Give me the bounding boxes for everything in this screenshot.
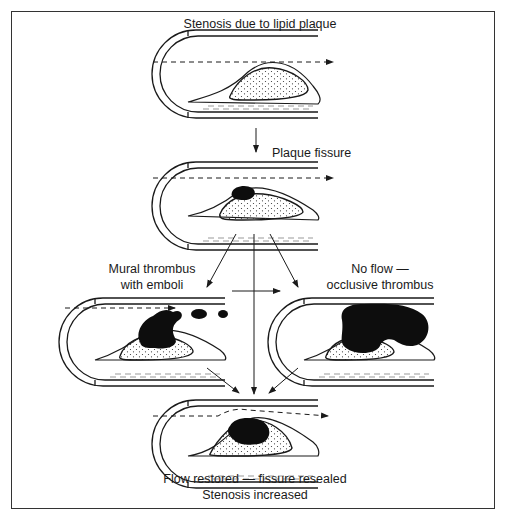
label-stenosis: Stenosis due to lipid plaque <box>150 17 370 32</box>
label-occlusive-line2: occlusive thrombus <box>310 278 450 293</box>
vessel-stenosis <box>152 30 333 118</box>
label-restored-line2: Stenosis increased <box>140 488 370 503</box>
vessel-mural-thrombus <box>59 298 228 386</box>
label-occlusive-line1: No flow — <box>310 262 450 277</box>
arrow-occlusive-to-restored <box>269 368 298 393</box>
vessel-fissure <box>152 162 333 250</box>
label-mural-line2: with emboli <box>92 278 212 293</box>
label-restored-line1: Flow restored — fissure resealed <box>140 472 370 487</box>
arrow-to-occlusive <box>270 234 298 287</box>
label-mural-line1: Mural thrombus <box>92 262 212 277</box>
label-fissure: Plaque fissure <box>272 146 351 161</box>
